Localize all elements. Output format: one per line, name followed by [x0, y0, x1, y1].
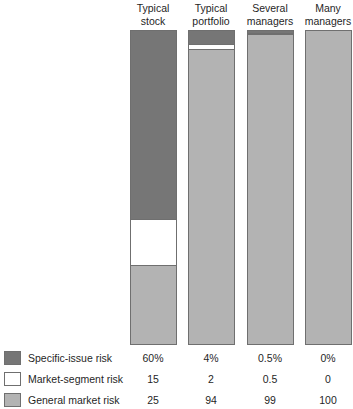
column-header-typical-stock: Typical stock: [124, 2, 182, 28]
legend-row-market-segment-risk: Market-segment risk 15 2 0.5 0: [0, 369, 353, 390]
bar-segment-general-market-risk: [306, 31, 351, 344]
bar-several-managers: [247, 30, 294, 345]
legend-swatch-specific-issue-risk: [4, 351, 21, 365]
column-header-typical-portfolio: Typical portfolio: [182, 2, 240, 28]
bar-typical-portfolio: [188, 30, 235, 345]
column-header-many-managers: Many managers: [299, 2, 353, 28]
column-header-line-2: stock: [124, 15, 182, 28]
bar-segment-general-market-risk: [131, 266, 176, 344]
legend-label-specific-issue-risk: Specific-issue risk: [28, 350, 112, 366]
column-header-line-1: Typical: [124, 2, 182, 15]
bar-typical-stock: [130, 30, 177, 345]
column-header-line-1: Many: [299, 2, 353, 15]
column-header-several-managers: Several managers: [241, 2, 299, 28]
bar-many-managers: [305, 30, 352, 345]
column-header-line-1: Several: [241, 2, 299, 15]
bar-segment-general-market-risk: [248, 35, 293, 345]
value-general-market-risk-several-managers: 99: [241, 392, 299, 408]
value-market-segment-risk-typical-stock: 15: [124, 371, 182, 387]
bar-segment-general-market-risk: [189, 50, 234, 344]
legend-label-general-market-risk: General market risk: [28, 392, 120, 408]
value-market-segment-risk-typical-portfolio: 2: [182, 371, 240, 387]
column-header-line-2: managers: [241, 15, 299, 28]
legend-label-market-segment-risk: Market-segment risk: [28, 371, 123, 387]
value-general-market-risk-many-managers: 100: [299, 392, 353, 408]
column-header-line-2: portfolio: [182, 15, 240, 28]
legend-swatch-market-segment-risk: [4, 372, 21, 386]
value-specific-issue-risk-several-managers: 0.5%: [241, 350, 299, 366]
value-specific-issue-risk-typical-stock: 60%: [124, 350, 182, 366]
value-general-market-risk-typical-stock: 25: [124, 392, 182, 408]
legend-row-specific-issue-risk: Specific-issue risk 60% 4% 0.5% 0%: [0, 348, 353, 369]
value-specific-issue-risk-typical-portfolio: 4%: [182, 350, 240, 366]
bar-segment-specific-issue-risk: [189, 31, 234, 44]
bar-segment-specific-issue-risk: [131, 31, 176, 219]
stacked-bar-chart: Typical stock Typical portfolio Several …: [0, 0, 353, 409]
value-market-segment-risk-several-managers: 0.5: [241, 371, 299, 387]
value-market-segment-risk-many-managers: 0: [299, 371, 353, 387]
legend-row-general-market-risk: General market risk 25 94 99 100: [0, 390, 353, 409]
bar-segment-market-segment-risk: [131, 219, 176, 266]
legend-swatch-general-market-risk: [4, 393, 21, 407]
value-specific-issue-risk-many-managers: 0%: [299, 350, 353, 366]
value-general-market-risk-typical-portfolio: 94: [182, 392, 240, 408]
column-header-line-2: managers: [299, 15, 353, 28]
column-header-line-1: Typical: [182, 2, 240, 15]
